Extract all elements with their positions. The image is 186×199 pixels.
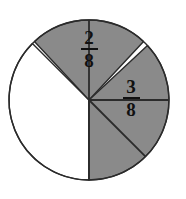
fraction-label-three-eighths: 3 8: [116, 77, 146, 119]
fraction-denominator: 8: [74, 51, 104, 70]
fraction-label-two-eighths: 2 8: [74, 28, 104, 70]
fraction-pie-figure: 2 8 3 8: [0, 0, 186, 199]
fraction-numerator: 2: [74, 28, 104, 47]
fraction-numerator: 3: [116, 77, 146, 96]
fraction-denominator: 8: [116, 100, 146, 119]
